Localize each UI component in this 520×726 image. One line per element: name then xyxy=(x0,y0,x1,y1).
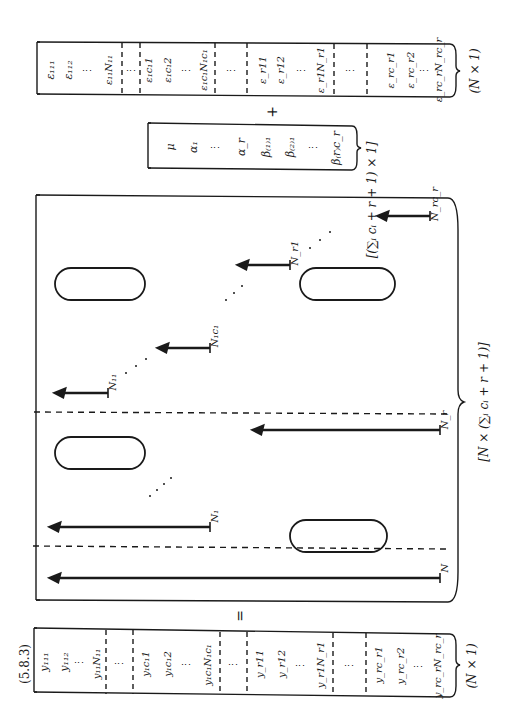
zero-block xyxy=(300,268,395,300)
plus-sign: + xyxy=(264,106,280,118)
epsilon-entry: ε₁c₁2 xyxy=(162,57,173,82)
y-entry: ⋮ xyxy=(73,656,86,668)
beta-entry: μ xyxy=(164,143,177,150)
beta-entry: ⋮ xyxy=(307,141,320,153)
epsilon-entry: ε_r11 xyxy=(257,56,268,84)
epsilon-entry: ⋮ xyxy=(344,64,357,76)
alpha-last-label: N_r xyxy=(439,411,450,430)
y-entry: ⋮ xyxy=(412,660,425,672)
epsilon-entry: ⋮ xyxy=(81,64,94,76)
alpha-first-label: N₁ xyxy=(209,510,220,523)
y-entry: y₁₁N₁₁ xyxy=(91,649,102,679)
epsilon-entry: ⋮ xyxy=(295,64,308,76)
y-entry: y_r11 xyxy=(254,650,265,678)
epsilon-entry: ε_rc_r1 xyxy=(385,52,396,89)
epsilon-entry: ⋮ xyxy=(125,64,138,76)
mu-column-label: N xyxy=(439,564,450,573)
zero-block xyxy=(55,437,145,469)
epsilon-entry: ε₁₁N₁₁ xyxy=(103,55,114,85)
y-entry: y_r1N_r1 xyxy=(315,642,326,689)
y-entry: y₁c₁2 xyxy=(162,651,173,677)
beta-last-label: N_rc_r xyxy=(429,187,440,221)
y-entry: y₁₁₂ xyxy=(58,652,71,671)
beta-entry: β₍₂₎₁ xyxy=(284,137,297,158)
epsilon-entry: ⋮ xyxy=(225,64,238,76)
epsilon-entry: ε₁₁₁ xyxy=(44,60,57,79)
epsilon-entry: ε₁c₁N₁c₁ xyxy=(198,49,209,90)
epsilon-entry: ε₁c₁1 xyxy=(143,57,154,82)
beta-entry: α₁ xyxy=(187,141,200,153)
epsilon-entry: ε_rc_rN_rc_r xyxy=(433,38,444,102)
epsilon-entry: ε_rc_r2 xyxy=(405,52,416,89)
beta-entry: ⋮ xyxy=(209,141,222,153)
zero-block xyxy=(290,520,387,552)
beta-entry: β₍₁₎₁ xyxy=(260,137,273,158)
beta-dimension: [(∑ᵢ cᵢ + r + 1) × 1] xyxy=(365,142,379,259)
y-entry: y_rc_r1 xyxy=(373,646,384,683)
equation-number: (5.8.3) xyxy=(18,644,32,684)
y-entry: ⋮ xyxy=(227,658,240,670)
y-entry: ⋮ xyxy=(294,659,307,671)
epsilon-dimension: (N × 1) xyxy=(468,48,482,93)
y-entry: ⋮ xyxy=(113,657,126,669)
epsilon-entry: ⋮ xyxy=(180,64,193,76)
beta-entry: β₍r₎c_r xyxy=(330,131,343,165)
epsilon-entry: ε_r1N_r1 xyxy=(315,47,326,93)
epsilon-entry: ε_r12 xyxy=(275,56,286,84)
equals-sign: = xyxy=(232,610,248,622)
y-entry: y_rc_rN_rc_r xyxy=(432,634,443,699)
epsilon-entry: ε₁₁₂ xyxy=(62,60,75,79)
beta-mid1-label: N₁c₁ xyxy=(209,325,220,347)
y-entry: y_rc_r2 xyxy=(395,647,406,684)
zero-block xyxy=(55,268,145,300)
design-matrix-dimension: [N × (∑ᵢ cᵢ + r + 1)] xyxy=(477,342,491,462)
y-entry: y_r12 xyxy=(276,650,287,678)
y-entry: ⋮ xyxy=(343,659,356,671)
y-entry: y₁c₁1 xyxy=(140,651,151,677)
y-dimension: (N × 1) xyxy=(465,643,479,688)
equation-graphics xyxy=(0,0,520,726)
y-entry: ⋮ xyxy=(180,658,193,670)
beta-mid2-label: N_r1 xyxy=(289,241,300,266)
beta-entry: α_r xyxy=(235,138,248,156)
beta-first-label: N₁₁ xyxy=(107,374,118,391)
epsilon-entry: ⋮ xyxy=(418,64,431,76)
y-entry: y₁c₁N₁c₁ xyxy=(202,644,213,686)
y-entry: y₁₁₁ xyxy=(38,652,51,671)
